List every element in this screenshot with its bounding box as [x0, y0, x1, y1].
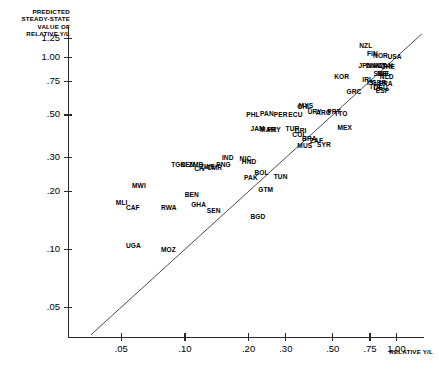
y-tick — [64, 191, 72, 192]
point-label: SYR — [317, 141, 331, 148]
y-tick-label: 1.00 — [10, 51, 60, 62]
point-label: TUN — [274, 173, 288, 180]
point-label: CIV — [194, 165, 205, 172]
x-tick-label: .50 — [313, 343, 353, 354]
y-tick-label: .05 — [10, 301, 60, 312]
point-label: ARG — [316, 109, 331, 116]
point-label: MUS — [297, 142, 312, 149]
x-tick-label: .05 — [101, 343, 141, 354]
point-label: PAN — [260, 110, 274, 117]
point-label: PRY — [267, 126, 281, 133]
point-label: RWA — [161, 204, 177, 211]
x-tick-label: 1.00 — [376, 343, 416, 354]
x-tick — [332, 333, 333, 341]
x-tick — [248, 333, 249, 341]
point-label: NOR — [373, 52, 388, 59]
x-tick — [121, 333, 122, 341]
x-tick — [369, 333, 370, 341]
x-tick-label: .20 — [229, 343, 269, 354]
scatter-plot-figure: PREDICTED STEADY-STATE VALUE OF RELATIVE… — [0, 0, 439, 370]
y-tick-label: .20 — [10, 185, 60, 196]
point-label: ECU — [288, 111, 302, 118]
y-tick — [64, 38, 72, 39]
y-tick-label: .50 — [10, 108, 60, 119]
point-label: KOR — [334, 73, 349, 80]
y-tick — [64, 114, 72, 115]
point-label: MWI — [132, 182, 146, 189]
y-tick — [64, 81, 72, 82]
x-tick — [285, 333, 286, 341]
x-tick — [396, 333, 397, 341]
point-label: PHL — [246, 111, 260, 118]
y-tick-label: .10 — [10, 243, 60, 254]
point-label: MOZ — [161, 246, 176, 253]
point-label: NZL — [359, 42, 372, 49]
point-label: CAF — [126, 204, 140, 211]
point-label: BEN — [185, 191, 199, 198]
y-tick-label: .30 — [10, 151, 60, 162]
y-axis-line — [68, 26, 69, 337]
point-label: ESP — [376, 87, 390, 94]
point-label: PAK — [244, 174, 258, 181]
point-label: HND — [242, 158, 257, 165]
point-label: GRC — [346, 88, 361, 95]
y-tick-label: .75 — [10, 75, 60, 86]
y-tick — [64, 307, 72, 308]
point-label: BGD — [250, 213, 265, 220]
point-label: IND — [222, 154, 234, 161]
y-tick — [64, 157, 72, 158]
x-tick — [184, 333, 185, 341]
point-label: PER — [274, 111, 288, 118]
point-label: SEN — [207, 207, 221, 214]
point-label: UGA — [126, 242, 141, 249]
y-tick — [64, 249, 72, 250]
point-label: TTO — [334, 110, 347, 117]
y-tick — [64, 57, 72, 58]
point-label: MEX — [337, 124, 352, 131]
x-tick-label: .10 — [165, 343, 205, 354]
point-label: USA — [387, 53, 401, 60]
point-label: GHA — [191, 201, 206, 208]
point-label: GTM — [258, 186, 273, 193]
x-tick-label: .30 — [266, 343, 306, 354]
y-tick-label: 1.25 — [10, 32, 60, 43]
point-label: PNG — [216, 161, 231, 168]
